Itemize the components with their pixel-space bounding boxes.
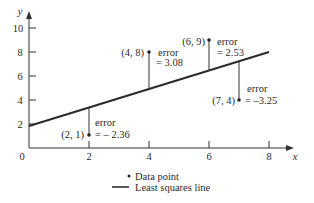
error-label: error [217, 36, 238, 47]
y-ticks [29, 28, 36, 124]
x-axis-label: x [292, 151, 298, 162]
y-axis-arrow-icon [26, 11, 32, 19]
least-squares-chart: 2 4 6 8 10 y 0 2 4 6 8 x (2, 1) error = … [0, 0, 314, 203]
y-tick-label: 2 [17, 119, 22, 130]
x-tick-label: 4 [146, 151, 152, 162]
error-label: error [95, 117, 116, 128]
point-label: (6, 9) [182, 36, 205, 48]
data-point [237, 98, 241, 102]
data-point [87, 133, 91, 137]
legend-dot-icon [128, 175, 131, 178]
error-value: = – 2.36 [95, 129, 130, 140]
legend-entry: Data point [135, 171, 179, 182]
data-point [207, 38, 211, 42]
point-label: (7, 4) [212, 95, 235, 107]
x-tick-label: 8 [266, 151, 271, 162]
y-tick-label: 6 [17, 71, 22, 82]
legend-entry: Least squares line [135, 182, 211, 193]
error-value: = 3.08 [156, 57, 183, 68]
error-value: = 2.53 [217, 47, 244, 58]
point-label: (2, 1) [61, 129, 84, 141]
y-tick-label: 4 [17, 95, 23, 106]
y-tick-label: 8 [17, 47, 22, 58]
origin-label: 0 [19, 151, 24, 162]
y-axis-label: y [17, 6, 23, 17]
y-tick-label: 10 [13, 23, 24, 34]
x-tick-label: 2 [86, 151, 91, 162]
x-tick-label: 6 [206, 151, 211, 162]
error-label: error [247, 83, 268, 94]
point-label: (4, 8) [121, 47, 144, 59]
data-point [147, 50, 151, 54]
error-value: = –3.25 [245, 95, 277, 106]
x-ticks [89, 141, 269, 148]
legend: Data point Least squares line [112, 171, 211, 193]
